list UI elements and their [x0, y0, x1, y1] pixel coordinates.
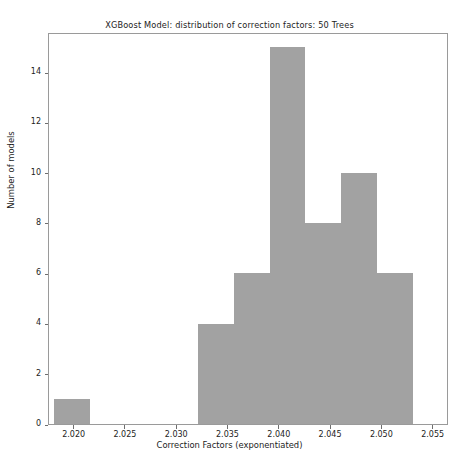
x-tick-mark — [381, 425, 382, 429]
x-axis-label: Correction Factors (exponentiated) — [0, 440, 459, 450]
x-tick-label: 2.040 — [267, 430, 290, 439]
x-tick-label: 2.020 — [62, 430, 85, 439]
y-tick-mark — [45, 274, 49, 275]
histogram-figure: XGBoost Model: distribution of correctio… — [0, 0, 459, 467]
y-tick-label: 12 — [31, 117, 41, 126]
histogram-bar — [341, 173, 377, 424]
x-tick-mark — [432, 425, 433, 429]
chart-title: XGBoost Model: distribution of correctio… — [0, 20, 459, 30]
histogram-bar — [198, 324, 234, 425]
x-tick-label: 2.055 — [421, 430, 444, 439]
y-tick-mark — [45, 223, 49, 224]
histogram-bar — [54, 399, 90, 424]
y-tick-mark — [45, 173, 49, 174]
x-tick-label: 2.050 — [370, 430, 393, 439]
y-tick-label: 2 — [36, 369, 41, 378]
histogram-bar — [305, 223, 341, 424]
y-tick-label: 4 — [36, 318, 41, 327]
x-tick-label: 2.030 — [165, 430, 188, 439]
histogram-bar — [270, 47, 306, 424]
y-axis-label: Number of models — [6, 100, 16, 240]
y-tick-label: 8 — [36, 218, 41, 227]
x-tick-mark — [176, 425, 177, 429]
histogram-bar — [377, 273, 413, 424]
y-tick-label: 0 — [36, 419, 41, 428]
x-tick-mark — [73, 425, 74, 429]
y-tick-mark — [45, 425, 49, 426]
x-tick-label: 2.035 — [216, 430, 239, 439]
x-tick-mark — [227, 425, 228, 429]
y-tick-mark — [45, 123, 49, 124]
x-tick-label: 2.045 — [319, 430, 342, 439]
y-tick-label: 14 — [31, 67, 41, 76]
histogram-bar — [234, 273, 270, 424]
y-tick-mark — [45, 73, 49, 74]
plot-area — [48, 33, 448, 425]
y-tick-mark — [45, 374, 49, 375]
x-tick-mark — [278, 425, 279, 429]
x-tick-label: 2.025 — [113, 430, 136, 439]
y-tick-label: 10 — [31, 168, 41, 177]
y-tick-mark — [45, 324, 49, 325]
y-tick-label: 6 — [36, 268, 41, 277]
x-tick-mark — [330, 425, 331, 429]
x-tick-mark — [124, 425, 125, 429]
